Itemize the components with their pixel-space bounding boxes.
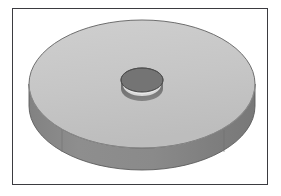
figure-root: Isometric solid render of a flat circula… — [0, 0, 281, 196]
washer-scene — [0, 0, 281, 196]
center-bore-hole — [121, 68, 163, 101]
